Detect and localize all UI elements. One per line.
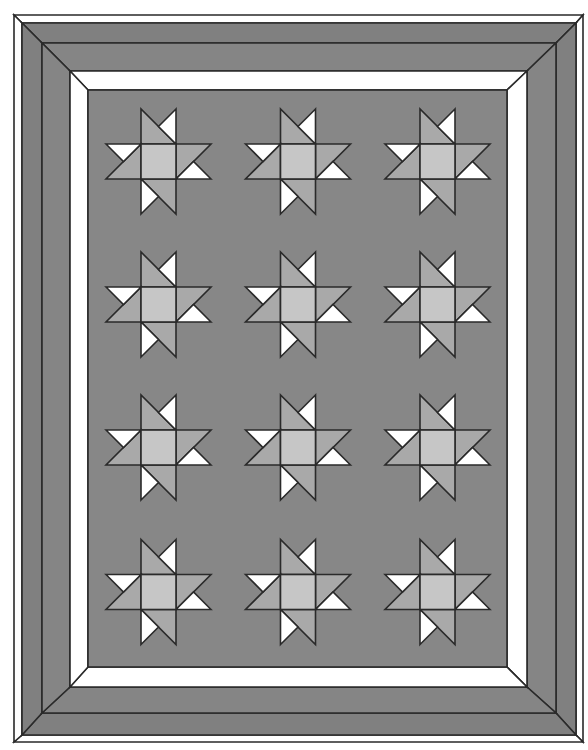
inner-dark-border-top [42,43,556,71]
star-center-square [281,287,316,322]
inner-dark-border-bottom [42,687,556,713]
star-center-square [420,430,455,465]
white-border-bottom [70,667,527,687]
outer-dark-border-left [22,23,42,735]
star-center-square [141,144,176,179]
star-center-square [281,575,316,610]
outer-white-strip-top [14,15,583,23]
outer-white-strip-left [14,15,22,742]
star-center-square [141,287,176,322]
star-center-square [141,575,176,610]
quilt-diagram [0,0,588,750]
white-border-left [70,71,88,687]
white-border-top [70,71,527,90]
outer-white-strip-bottom [14,735,583,742]
star-center-square [420,287,455,322]
star-center-square [141,430,176,465]
inner-dark-border-right [527,43,556,713]
outer-white-strip-right [576,15,583,742]
star-center-square [420,575,455,610]
outer-dark-border-right [556,23,576,735]
star-center-square [281,144,316,179]
inner-dark-border-left [42,43,70,713]
outer-dark-border-top [22,23,576,43]
star-center-square [281,430,316,465]
outer-dark-border-bottom [22,713,576,735]
white-border-right [507,71,527,687]
star-center-square [420,144,455,179]
